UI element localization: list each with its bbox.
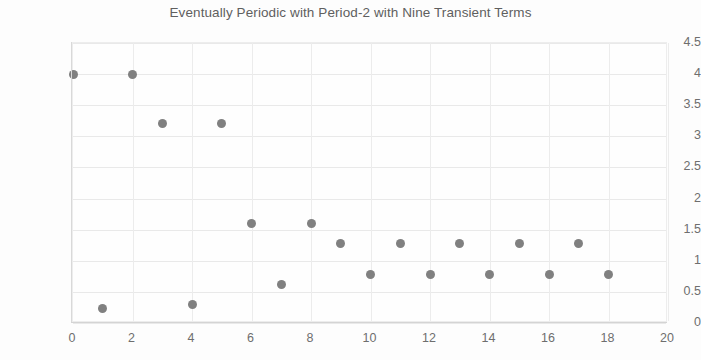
- gridline-vertical: [549, 43, 550, 321]
- gridline-horizontal: [73, 323, 666, 324]
- x-tick-label: 16: [541, 331, 555, 345]
- x-tick-label: 6: [247, 331, 254, 345]
- scatter-chart: Eventually Periodic with Period-2 with N…: [0, 0, 701, 360]
- data-point: [217, 119, 226, 128]
- gridline-horizontal: [73, 167, 666, 168]
- gridline-horizontal: [73, 105, 666, 106]
- gridline-vertical: [490, 43, 491, 321]
- gridline-horizontal: [73, 230, 666, 231]
- data-point: [277, 280, 286, 289]
- x-tick-label: 2: [128, 331, 135, 345]
- x-tick-label: 0: [69, 331, 76, 345]
- x-tick-label: 4: [188, 331, 195, 345]
- x-tick-label: 12: [422, 331, 436, 345]
- data-point: [515, 239, 524, 248]
- plot-area: [72, 42, 667, 322]
- data-point: [98, 304, 107, 313]
- gridline-horizontal: [73, 261, 666, 262]
- data-point: [307, 219, 316, 228]
- data-point: [485, 270, 494, 279]
- x-tick-label: 18: [601, 331, 615, 345]
- data-point: [188, 300, 197, 309]
- chart-title: Eventually Periodic with Period-2 with N…: [0, 5, 701, 20]
- data-point: [604, 270, 613, 279]
- data-point: [128, 70, 137, 79]
- gridline-horizontal: [73, 199, 666, 200]
- gridline-vertical: [371, 43, 372, 321]
- x-tick-label: 10: [363, 331, 377, 345]
- data-point: [69, 70, 78, 79]
- gridline-horizontal: [73, 292, 666, 293]
- data-point: [574, 239, 583, 248]
- data-point: [426, 270, 435, 279]
- gridline-vertical: [609, 43, 610, 321]
- x-tick-label: 14: [482, 331, 496, 345]
- gridline-vertical: [668, 43, 669, 321]
- data-point: [247, 219, 256, 228]
- data-point: [366, 270, 375, 279]
- data-point: [545, 270, 554, 279]
- y-axis-line: [71, 42, 72, 323]
- x-tick-label: 20: [660, 331, 674, 345]
- gridline-vertical: [311, 43, 312, 321]
- gridline-horizontal: [73, 136, 666, 137]
- data-point: [158, 119, 167, 128]
- gridline-horizontal: [73, 74, 666, 75]
- gridline-vertical: [430, 43, 431, 321]
- gridline-vertical: [252, 43, 253, 321]
- gridline-vertical: [192, 43, 193, 321]
- data-point: [455, 239, 464, 248]
- x-tick-label: 8: [307, 331, 314, 345]
- data-point: [396, 239, 405, 248]
- gridline-horizontal: [73, 43, 666, 44]
- gridline-vertical: [133, 43, 134, 321]
- x-axis-line: [71, 322, 667, 323]
- data-point: [336, 239, 345, 248]
